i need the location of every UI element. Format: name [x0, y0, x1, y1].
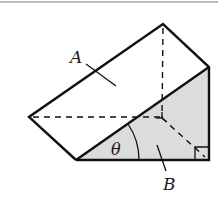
prism-diagram: A θ B — [0, 0, 218, 208]
label-b: B — [162, 174, 176, 194]
label-a: A — [68, 47, 82, 67]
label-theta: θ — [111, 140, 121, 159]
